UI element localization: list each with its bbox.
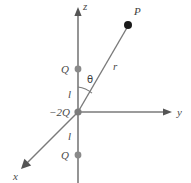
upper-charge-label: Q [61,63,69,75]
quadrupole-diagram: z y x Q −2Q Q l l P r θ [0,0,191,183]
field-point-label: P [133,5,141,17]
y-axis-label: y [176,106,182,118]
z-axis-arrowhead [74,7,81,16]
center-charge-dot [74,108,81,115]
z-axis-label: z [82,0,88,12]
upper-charge-dot [75,66,82,73]
lower-length-label: l [68,130,71,142]
figure-canvas: z y x Q −2Q Q l l P r θ [0,0,191,183]
lower-charge-label: Q [61,149,69,161]
radial-line-r [78,26,128,112]
theta-label: θ [87,74,93,85]
y-axis-arrowhead [163,108,172,115]
center-charge-label: −2Q [49,106,70,118]
r-line [78,26,128,112]
upper-length-label: l [68,88,71,100]
x-axis-label: x [12,170,18,182]
field-point-dot [124,21,132,29]
r-label: r [113,60,118,72]
y-axis [78,108,172,115]
lower-charge-dot [75,152,82,159]
